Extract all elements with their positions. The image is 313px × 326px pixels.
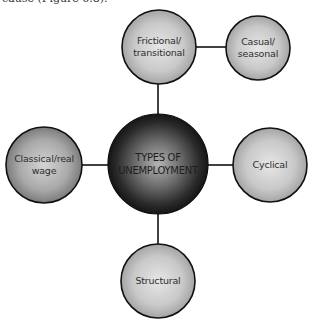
label-frictional: Frictional/ transitional bbox=[122, 10, 196, 84]
label-cyclical: Cyclical bbox=[233, 128, 307, 202]
label-casual: Casual/ seasonal bbox=[226, 16, 290, 80]
label-classical: Classical/real wage bbox=[6, 127, 82, 203]
label-structural: Structural bbox=[121, 244, 195, 318]
label-center: TYPES OF UNEMPLOYMENT bbox=[108, 114, 208, 214]
